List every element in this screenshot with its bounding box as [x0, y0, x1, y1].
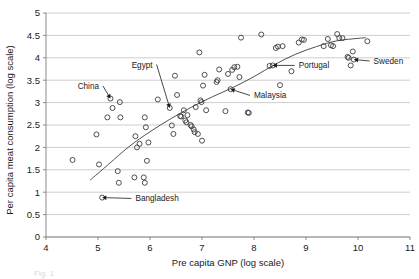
y-tick-label-4: 4: [35, 52, 40, 63]
data-point: [94, 132, 99, 137]
x-tick-label-11: 11: [405, 242, 415, 253]
y-tick-label-5: 5: [35, 7, 40, 18]
data-point: [201, 83, 206, 88]
data-point: [142, 180, 147, 185]
data-point: [141, 175, 146, 180]
annotation-portugal: Portugal: [273, 61, 330, 70]
annotation-leader-bangladesh: [106, 198, 131, 199]
data-point: [146, 140, 151, 145]
data-point: [278, 83, 283, 88]
data-point: [348, 63, 353, 68]
y-tick-label-0.5: 0.5: [27, 209, 40, 220]
data-point: [116, 180, 121, 185]
chart-container: 00.511.522.533.544.55 4567891011 ChinaEg…: [0, 0, 419, 279]
gridlines-group: [46, 13, 410, 237]
tickmarks-group: [43, 13, 410, 240]
data-point: [143, 125, 148, 130]
data-point: [237, 75, 242, 80]
annotation-label-sweden: Sweden: [374, 57, 404, 66]
annotation-label-egypt: Egypt: [132, 61, 154, 70]
data-point: [118, 115, 123, 120]
y-tick-label-3: 3: [35, 97, 40, 108]
data-point: [185, 113, 190, 118]
x-tick-label-8: 8: [251, 242, 256, 253]
annotation-leader-sweden: [358, 60, 370, 61]
data-point: [110, 105, 115, 110]
annotation-malaysia: Malaysia: [231, 88, 287, 100]
data-point: [202, 72, 207, 77]
y-tick-label-2: 2: [35, 142, 40, 153]
annotation-china: China: [78, 82, 111, 99]
data-point: [217, 67, 222, 72]
data-point: [142, 115, 147, 120]
data-point: [70, 157, 75, 162]
x-tick-label-10: 10: [353, 242, 364, 253]
x-tick-label-9: 9: [303, 242, 308, 253]
annotation-bangladesh: Bangladesh: [102, 194, 179, 203]
y-tick-label-1.5: 1.5: [27, 164, 40, 175]
data-point: [223, 109, 228, 114]
annotation-label-malaysia: Malaysia: [254, 91, 287, 100]
y-tick-label-3.5: 3.5: [27, 75, 40, 86]
annotation-label-bangladesh: Bangladesh: [135, 194, 179, 203]
data-point: [350, 49, 355, 54]
annotation-leader-malaysia: [235, 90, 250, 95]
data-points-group: [70, 32, 370, 201]
x-tick-label-6: 6: [147, 242, 152, 253]
data-point: [132, 175, 137, 180]
data-point: [325, 36, 330, 41]
data-point: [226, 71, 231, 76]
annotation-label-portugal: Portugal: [299, 61, 330, 70]
data-point: [204, 108, 209, 113]
data-point: [259, 32, 264, 37]
y-tick-label-4.5: 4.5: [27, 30, 40, 41]
data-point: [97, 162, 102, 167]
data-point: [105, 115, 110, 120]
x-tick-label-4: 4: [43, 242, 48, 253]
data-point: [169, 123, 174, 128]
data-point: [235, 64, 240, 69]
data-point: [175, 92, 180, 97]
trend-line: [90, 38, 366, 180]
data-point: [172, 73, 177, 78]
data-point: [197, 50, 202, 55]
data-point: [280, 44, 285, 49]
x-tick-label-7: 7: [199, 242, 204, 253]
y-axis-title: Per capita meat consumption (log scale): [4, 45, 15, 215]
y-tick-labels: 00.511.522.533.544.55: [27, 7, 40, 242]
x-axis-title: Pre capita GNP (log scale): [172, 257, 284, 268]
annotation-leader-china: [103, 86, 108, 95]
data-point: [289, 69, 294, 74]
data-point: [296, 40, 301, 45]
x-tick-labels: 4567891011: [43, 242, 415, 253]
trend-curve: [90, 38, 366, 180]
data-point: [365, 39, 370, 44]
data-point: [115, 169, 120, 174]
annotation-label-china: China: [78, 82, 100, 91]
x-tick-label-5: 5: [95, 242, 100, 253]
annotation-egypt: Egypt: [132, 61, 171, 108]
data-point: [239, 35, 244, 40]
y-tick-label-0: 0: [35, 231, 40, 242]
y-tick-label-2.5: 2.5: [27, 119, 40, 130]
data-point: [133, 134, 138, 139]
data-point: [117, 100, 122, 105]
data-point: [137, 141, 142, 146]
annotation-sweden: Sweden: [354, 57, 404, 66]
data-point: [144, 158, 149, 163]
scatter-plot: 00.511.522.533.544.55 4567891011 ChinaEg…: [0, 0, 419, 279]
data-point: [155, 97, 160, 102]
y-tick-label-1: 1: [35, 187, 40, 198]
data-point: [200, 138, 205, 143]
figure-caption: Fig. 1: [34, 269, 55, 278]
data-point: [171, 131, 176, 136]
annotation-leader-egypt: [157, 65, 169, 104]
